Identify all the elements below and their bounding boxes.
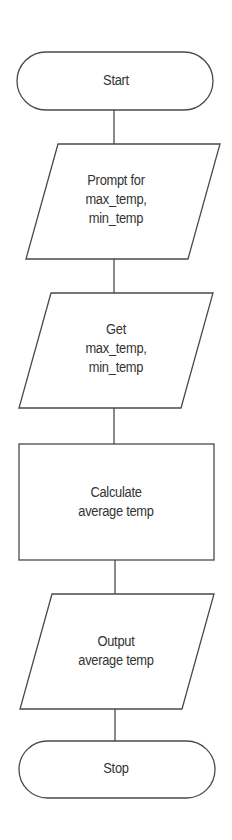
flowchart-canvas: [0, 0, 232, 840]
output-label-line-1: Output: [9, 632, 222, 651]
prompt-label-line-2: max_temp,: [9, 190, 222, 209]
prompt-label-line-3: min_temp: [9, 209, 222, 228]
prompt-label: Prompt for max_temp, min_temp: [9, 171, 222, 228]
calculate-label: Calculate average temp: [9, 483, 222, 521]
stop-label: Stop: [9, 759, 222, 778]
calculate-label-line-1: Calculate: [9, 483, 222, 502]
stop-label-line: Stop: [9, 759, 222, 778]
get-label: Get max_temp, min_temp: [9, 320, 222, 377]
get-label-line-1: Get: [9, 320, 222, 339]
output-label: Output average temp: [9, 632, 222, 670]
start-label-line: Start: [9, 71, 222, 90]
get-label-line-3: min_temp: [9, 358, 222, 377]
get-label-line-2: max_temp,: [9, 339, 222, 358]
output-label-line-2: average temp: [9, 651, 222, 670]
prompt-label-line-1: Prompt for: [9, 171, 222, 190]
start-label: Start: [9, 71, 222, 90]
calculate-label-line-2: average temp: [9, 502, 222, 521]
